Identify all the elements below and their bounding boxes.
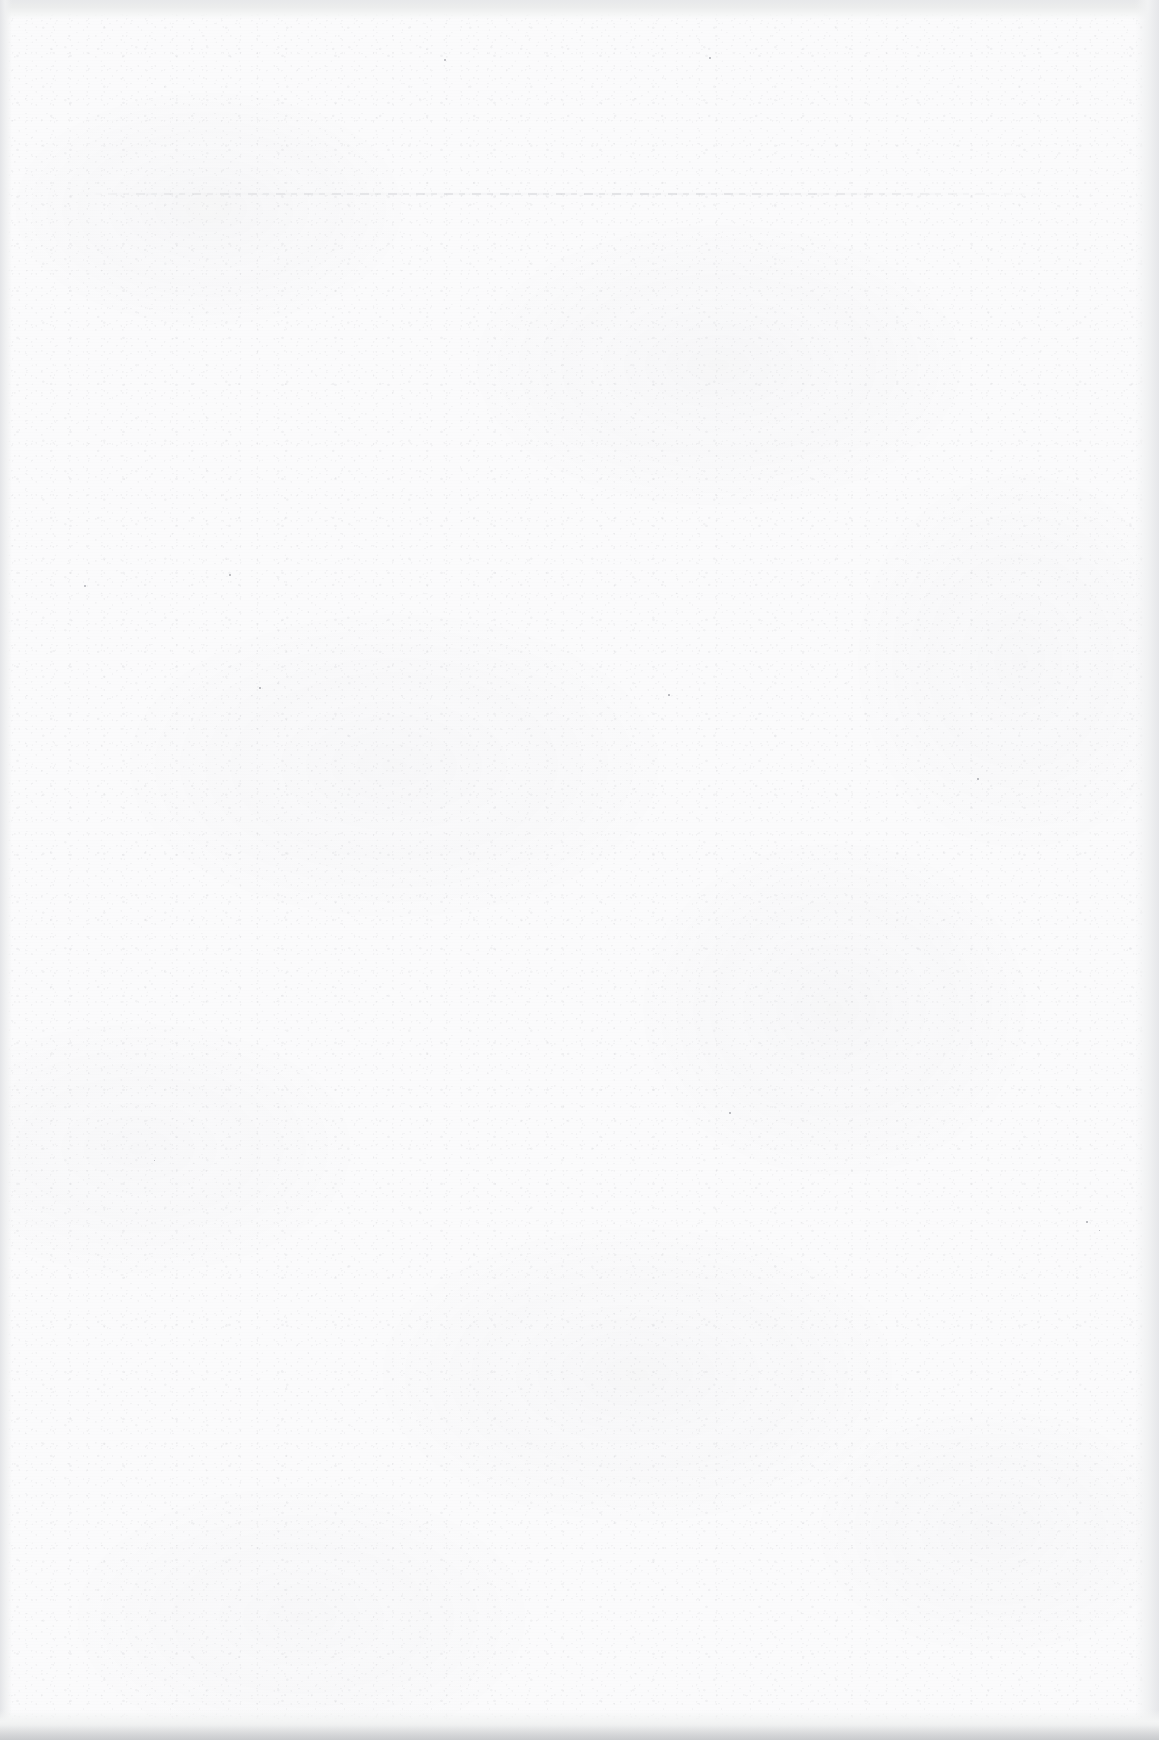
scanned-page: This page is blank — no text, figures, c…	[0, 0, 1159, 1740]
page-content-area	[80, 210, 1060, 1630]
